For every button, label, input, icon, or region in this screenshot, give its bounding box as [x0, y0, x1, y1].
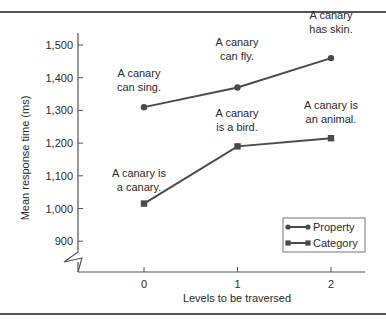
y-tick-label: 1,000 [45, 203, 73, 215]
square-marker-icon [328, 135, 334, 141]
y-tick-label: 1,500 [45, 39, 73, 51]
legend-circle-icon [285, 224, 290, 229]
point-annotation: A canary isa canary. [112, 167, 166, 193]
y-tick-label: 1,100 [45, 170, 73, 182]
y-tick-label: 1,200 [45, 137, 73, 149]
circle-marker-icon [141, 104, 147, 110]
x-axis-label: Levels to be traversed [183, 292, 291, 304]
point-annotation: A canaryis a bird. [216, 107, 259, 133]
y-tick-label: 1,400 [45, 72, 73, 84]
circle-marker-icon [234, 84, 240, 90]
point-annotation: A canarycan fly. [216, 36, 259, 62]
legend-label: Category [313, 237, 358, 249]
square-marker-icon [141, 200, 147, 206]
x-tick-label: 1 [234, 278, 240, 290]
legend-square-icon [305, 240, 310, 245]
x-tick-label: 2 [328, 278, 334, 290]
legend-label: Property [313, 221, 355, 233]
point-annotation: A canaryhas skin. [309, 9, 353, 35]
circle-marker-icon [328, 55, 334, 61]
y-tick-label: 900 [55, 235, 73, 247]
annotations: A canarycan sing.A canarycan fly.A canar… [112, 9, 358, 193]
x-axis: 012 [78, 267, 365, 290]
legend-square-icon [285, 240, 290, 245]
x-tick-label: 0 [141, 278, 147, 290]
legend: PropertyCategory [283, 218, 365, 252]
point-annotation: A canarycan sing. [117, 67, 161, 93]
y-tick-label: 1,300 [45, 104, 73, 116]
line-chart: 9001,0001,1001,2001,3001,4001,500 012 Me… [0, 0, 386, 324]
series-line-property [144, 58, 331, 107]
legend-circle-icon [305, 224, 310, 229]
y-axis-label: Mean response time (ms) [19, 96, 31, 221]
point-annotation: A canary isan animal. [304, 99, 358, 125]
y-axis: 9001,0001,1001,2001,3001,4001,500 [45, 33, 83, 272]
square-marker-icon [234, 143, 240, 149]
